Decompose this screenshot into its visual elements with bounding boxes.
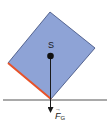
center-of-gravity-label: S — [48, 40, 54, 50]
stability-diagram: S FG → — [0, 0, 107, 123]
force-label: FG — [55, 111, 66, 121]
force-vector-arrow-icon: → — [55, 106, 61, 112]
center-of-gravity-dot — [47, 53, 54, 60]
force-label-subscript: G — [61, 115, 66, 121]
